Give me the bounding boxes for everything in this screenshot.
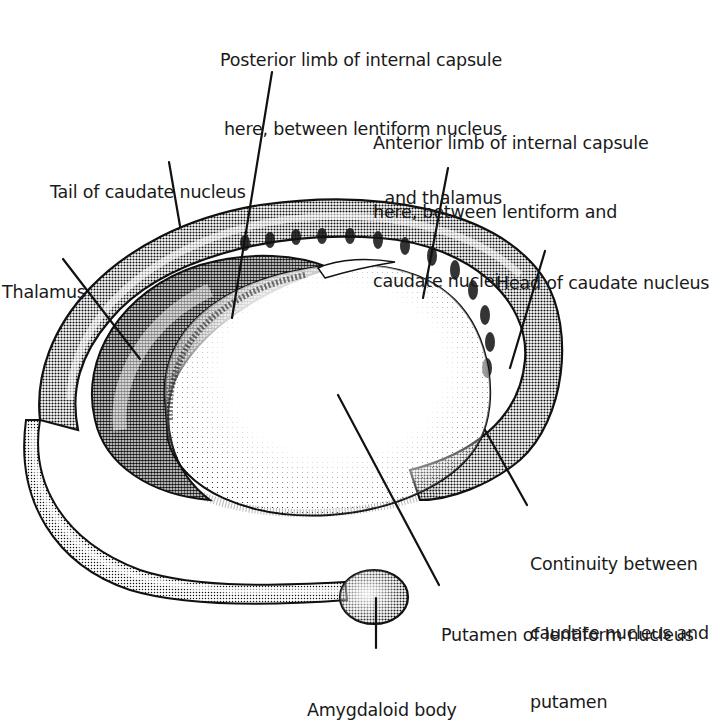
label-line: Continuity between (530, 553, 722, 576)
label-head-of-caudate: Head of caudate nucleus (496, 226, 722, 341)
label-amygdaloid-body: Amygdaloid body (307, 653, 507, 724)
label-line: Anterior limb of internal capsule (373, 132, 703, 155)
amygdaloid-shape (340, 570, 408, 624)
label-line: here, between lentiform and (373, 201, 703, 224)
label-line: Putamen of lentiform nucleus (441, 624, 722, 647)
label-tail-of-caudate: Tail of caudate nucleus (50, 135, 280, 250)
label-line: Head of caudate nucleus (496, 272, 722, 295)
label-line: putamen (530, 691, 722, 714)
label-line: Posterior limb of internal capsule (142, 49, 502, 72)
label-thalamus: Thalamus (2, 235, 102, 350)
label-line: Tail of caudate nucleus (50, 181, 280, 204)
label-line: Amygdaloid body (307, 699, 507, 722)
label-line: Thalamus (2, 281, 102, 304)
